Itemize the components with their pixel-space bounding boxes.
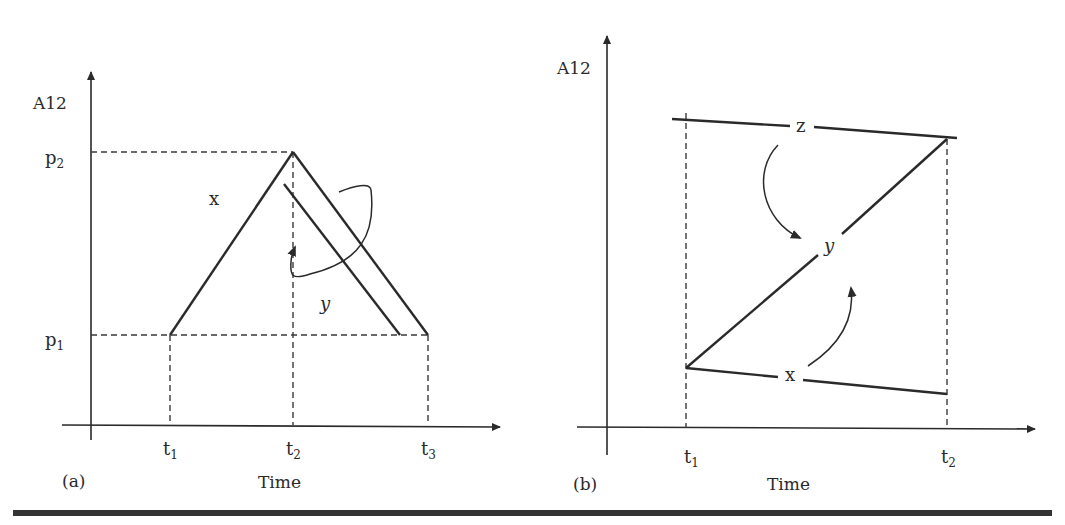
panel-a-xtick-t3: t3 [421, 438, 436, 462]
panel-a-ytick-p2: p2 [45, 147, 64, 171]
panel-b-curve-z-left [672, 119, 790, 126]
panel-b-curve-x-left [686, 368, 778, 377]
panel-a-x-axis-label: Time [258, 472, 301, 492]
panel-b-xtick-t2: t2 [941, 446, 956, 470]
panel-b-x-axis-label: Time [767, 474, 810, 494]
panel-b-curve-label-z: z [796, 115, 805, 136]
panel-a-xtick-t1: t1 [163, 438, 178, 462]
panel-b-arrow-x-to-y-icon [808, 288, 852, 366]
panel-b-curve-label-y: y [823, 235, 835, 256]
panel-a-curve-y [284, 184, 400, 335]
panel-b-y-axis-label: A12 [556, 58, 591, 78]
panel-b-x-axis [577, 427, 1035, 429]
panel-a-guides [91, 152, 428, 425]
panel-a-xtick-t2: t2 [286, 438, 301, 462]
panel-b: A12 z y x t1 t2 (b) Time [556, 36, 1035, 494]
panel-b-curve-x-right [803, 380, 947, 394]
panel-b-curve-y-lower [686, 255, 818, 368]
panel-a: A12 p2 p1 t1 t2 t3 x y (a) Time [32, 72, 500, 492]
panel-a-curve-x-falling [293, 152, 428, 335]
panel-b-curve-y-upper [842, 139, 947, 234]
panel-b-arrow-z-to-y-icon [764, 145, 800, 238]
panel-b-curve-label-x: x [785, 364, 795, 385]
panel-b-label: (b) [573, 474, 597, 494]
panel-a-x-axis [62, 425, 500, 427]
panel-a-curve-x-rising [170, 152, 293, 335]
panel-a-curve-label-y: y [319, 293, 331, 314]
panel-a-label: (a) [62, 471, 85, 491]
panel-b-xtick-t1: t1 [684, 446, 699, 470]
panel-b-curve-z-right [814, 127, 957, 138]
panel-a-curve-label-x: x [209, 188, 219, 209]
panel-a-ytick-p1: p1 [45, 329, 64, 353]
figure-canvas: A12 p2 p1 t1 t2 t3 x y (a) Time [0, 0, 1065, 525]
figure-bottom-rule [13, 510, 1052, 516]
panel-a-transition-arrow-icon [291, 186, 372, 277]
panel-a-y-axis-label: A12 [32, 93, 67, 113]
